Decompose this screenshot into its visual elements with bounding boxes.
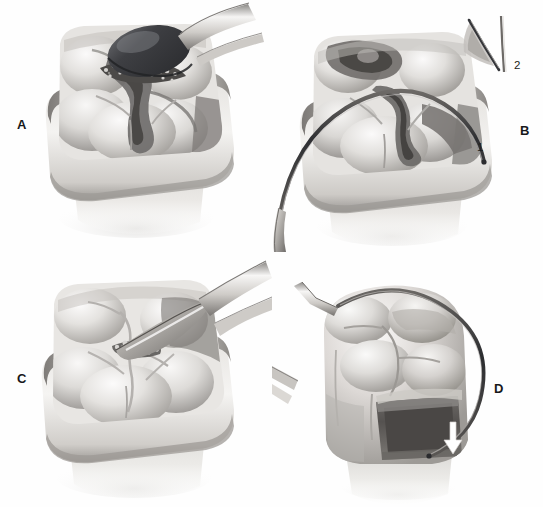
panel-label-b: B: [520, 124, 530, 137]
cusp-mesiobuccal: [324, 296, 392, 344]
explorer-probe-shank: [294, 282, 338, 316]
panel-d: D: [272, 254, 543, 507]
panel-b-illustration: [272, 0, 543, 254]
panel-label-c: C: [17, 372, 27, 385]
panel-c-illustration: [0, 254, 272, 507]
callout-number-2: 2: [514, 60, 520, 72]
panel-label-d: D: [494, 382, 504, 395]
cusp-distolingual: [402, 344, 466, 396]
explorer-probe-tip: [426, 453, 431, 458]
explorer-probe-tip: [481, 159, 486, 164]
cusp-mesiolingual: [340, 340, 412, 392]
panel-label-a: A: [17, 118, 27, 131]
callout-number-1: 1: [477, 142, 483, 154]
groove-buccal-vertical: [371, 394, 372, 440]
groove-central-lower: [126, 386, 127, 418]
panel-a-illustration: [0, 0, 272, 254]
panel-b: 1 2 B: [272, 0, 543, 254]
groove-central: [384, 134, 385, 168]
panel-c: C: [0, 254, 272, 507]
panel-a: A: [0, 0, 272, 254]
dental-restoration-figure: A: [0, 0, 543, 507]
